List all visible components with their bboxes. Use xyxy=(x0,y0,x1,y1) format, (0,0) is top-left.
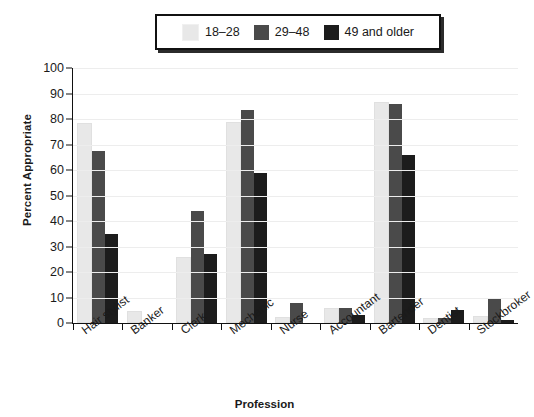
gridline-30 xyxy=(73,247,518,248)
y-tick-0: 0 xyxy=(57,316,64,330)
y-tick-50: 50 xyxy=(50,189,64,203)
legend-label-29-48: 29–48 xyxy=(275,25,310,39)
bar-mechanic-29–48 xyxy=(241,110,254,323)
y-tick-40: 40 xyxy=(50,214,64,228)
bar-hair-stylist-18–28 xyxy=(77,123,92,323)
gridline-40 xyxy=(73,221,518,222)
bar-bartender-29–48 xyxy=(389,104,402,323)
y-tick-90: 90 xyxy=(50,87,64,101)
y-axis-tick-labels: 1009080706050403020100 xyxy=(30,68,72,323)
gridline-50 xyxy=(73,196,518,197)
bar-clerk-49-and-older xyxy=(204,254,217,323)
legend-swatch-29-48 xyxy=(254,25,269,40)
legend-swatch-49-and-older xyxy=(324,25,339,40)
y-tick-10: 10 xyxy=(50,291,64,305)
chart-legend: 18–28 29–48 49 and older xyxy=(155,14,441,50)
x-axis-title: Profession xyxy=(0,398,529,410)
gridline-20 xyxy=(73,272,518,273)
legend-item-18-28: 18–28 xyxy=(182,24,240,41)
chart-grid xyxy=(72,68,518,324)
gridline-10 xyxy=(73,298,518,299)
bar-clerk-29–48 xyxy=(191,211,204,323)
y-tick-100: 100 xyxy=(43,61,64,75)
y-tick-20: 20 xyxy=(50,265,64,279)
x-axis-tick-labels: Hair stylistBankerClerkMechanicNurseAcco… xyxy=(72,326,517,386)
gridline-80 xyxy=(73,119,518,120)
legend-label-49-and-older: 49 and older xyxy=(345,25,415,39)
bar-clerk-18–28 xyxy=(176,257,191,323)
legend-item-49-and-older: 49 and older xyxy=(324,25,415,40)
y-tick-60: 60 xyxy=(50,163,64,177)
legend-label-18-28: 18–28 xyxy=(205,25,240,39)
gridline-100 xyxy=(73,68,518,69)
gridline-90 xyxy=(73,94,518,95)
gridline-70 xyxy=(73,145,518,146)
bar-bartender-18–28 xyxy=(374,102,389,323)
legend-item-29-48: 29–48 xyxy=(254,25,310,40)
gridline-60 xyxy=(73,170,518,171)
legend-swatch-18-28 xyxy=(182,24,199,41)
y-tick-70: 70 xyxy=(50,138,64,152)
y-tick-80: 80 xyxy=(50,112,64,126)
bar-mechanic-18–28 xyxy=(226,122,241,323)
y-tick-30: 30 xyxy=(50,240,64,254)
